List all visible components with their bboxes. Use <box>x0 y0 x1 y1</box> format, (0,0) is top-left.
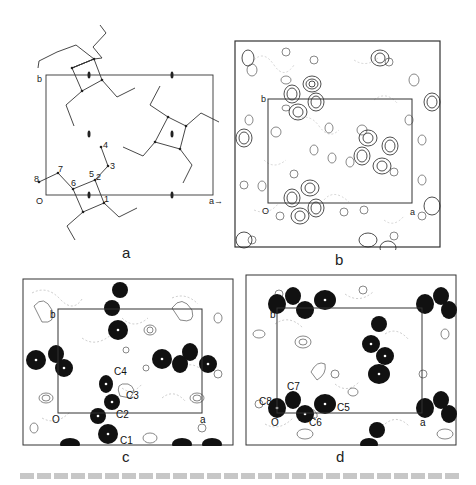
atom-label-c2: C2 <box>116 409 129 420</box>
origin-label: O <box>36 196 43 206</box>
atom-label-c3: C3 <box>126 390 139 401</box>
axis-b-label: b <box>50 309 56 320</box>
molecular-packing-diagram: b O a→ 1 2 3 4 5 6 7 8 <box>0 0 238 240</box>
panel-label-b: b <box>335 251 343 268</box>
panel-label-a: a <box>122 244 130 261</box>
atom-label-8: 8 <box>34 174 39 184</box>
panel-label-d: d <box>336 448 344 465</box>
fourier-map-d: b O a C7 C8 C5 C6 <box>245 274 457 446</box>
atom-label-c4: C4 <box>114 366 127 377</box>
axis-b-label: b <box>261 94 266 104</box>
figure-caption-truncated <box>20 473 460 479</box>
atom-label-6: 6 <box>71 178 76 188</box>
panel-label-c: c <box>122 448 130 465</box>
axis-a-label: a <box>420 417 426 428</box>
atom-label-7: 7 <box>58 164 63 174</box>
atom-label-1: 1 <box>104 194 109 204</box>
atom-label-c1: C1 <box>120 435 133 446</box>
atom-label-c5: C5 <box>337 402 350 413</box>
axis-a-label: a <box>410 207 415 217</box>
panel-c: b O a C4 C3 C2 C1 c <box>22 278 234 468</box>
atom-label-4: 4 <box>103 140 108 150</box>
axis-a-label: a→ <box>209 196 223 206</box>
fourier-map-c: b O a C4 C3 C2 C1 <box>22 278 234 446</box>
panel-d: b O a C7 C8 C5 C6 d <box>245 274 457 468</box>
atom-label-c7: C7 <box>287 381 300 392</box>
axis-a-label: a <box>200 414 206 425</box>
atom-label-3: 3 <box>110 161 115 171</box>
panel-a: b O a→ 1 2 3 4 5 6 7 8 a <box>0 0 238 240</box>
origin-label: O <box>271 417 279 428</box>
origin-label: O <box>262 206 269 216</box>
atom-label-c8: C8 <box>259 396 272 407</box>
panel-b: b O a b <box>234 40 442 265</box>
atom-label-c6: C6 <box>309 417 322 428</box>
electron-density-map: b O a <box>234 40 442 250</box>
unit-cell <box>46 75 213 195</box>
axis-b-label: b <box>270 309 276 320</box>
atom-label-2: 2 <box>96 172 101 182</box>
axis-b-label: b <box>37 74 42 84</box>
origin-label: O <box>52 414 60 425</box>
atom-label-5: 5 <box>89 169 94 179</box>
